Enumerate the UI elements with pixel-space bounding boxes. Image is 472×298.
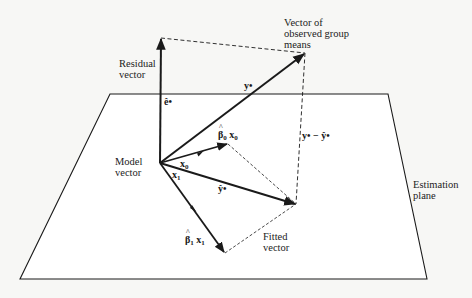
fitted-label-line1: Fitted [263, 231, 289, 242]
x0-label: x0 [180, 159, 189, 172]
beta1-subscript: 1 [190, 239, 194, 247]
beta1-x-subscript: 1 [201, 239, 205, 247]
model-label-line1: Model [115, 156, 142, 167]
estimation-plane-label: Estimation plane [413, 179, 459, 201]
plane-label-line1: Estimation [413, 179, 459, 190]
fitted-vector-label: Fitted vector [263, 231, 289, 253]
observed-label-line3: means [284, 39, 349, 50]
beta0-x-subscript: 0 [234, 134, 238, 142]
residual-label-line2: vector [119, 69, 156, 80]
residual-label-line1: Residual [119, 58, 156, 69]
observed-label-line2: observed group [284, 28, 349, 39]
model-label-line2: vector [115, 167, 142, 178]
y-hat-text: ŷ• [218, 183, 227, 194]
beta0-symbol: β [218, 130, 223, 140]
e-hat-text: ê• [164, 96, 172, 107]
y-minus-yhat-text: y• − ŷ• [302, 130, 330, 141]
observed-means-label: Vector of observed group means [284, 17, 349, 50]
y-hat-label: ŷ• [218, 184, 227, 194]
y-dot-text: y• [244, 80, 253, 91]
observed-label-line1: Vector of [284, 17, 349, 28]
beta0-x0-label: β0 x0 [218, 130, 238, 143]
y-dot-label: y• [244, 81, 253, 91]
x1-label: x1 [172, 170, 181, 183]
beta1-x1-label: β1 x1 [185, 235, 205, 248]
y-minus-yhat-label: y• − ŷ• [302, 131, 330, 141]
vector-geometry-diagram [0, 0, 472, 298]
model-vector-label: Model vector [115, 156, 142, 178]
x0-subscript: 0 [185, 163, 189, 171]
fitted-label-line2: vector [263, 242, 289, 253]
plane-label-line2: plane [413, 190, 459, 201]
beta0-subscript: 0 [223, 134, 227, 142]
x1-subscript: 1 [177, 174, 181, 182]
e-hat-label: ê• [164, 97, 172, 107]
residual-vector-label: Residual vector [119, 58, 156, 80]
beta1-symbol: β [185, 235, 190, 245]
residual-vector-arrow [160, 39, 161, 163]
